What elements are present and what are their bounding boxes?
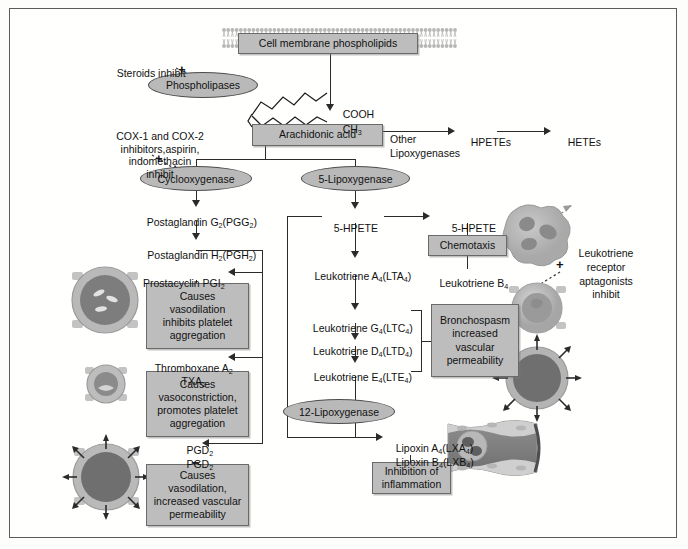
blood-vessel-constricted-left	[85, 365, 127, 403]
ltb4-label: Leukotriene B4	[420, 265, 516, 304]
bronchospasm-box[interactable]: Bronchospasm increased vascular permeabi…	[431, 304, 519, 377]
leukotriene-antagonists-label: Leukotriene receptor aptagonists inhibit	[561, 233, 651, 302]
steroids-inhibit-label: Steroids inhibit	[105, 55, 186, 92]
pgd2-label-b: PGD2	[150, 446, 238, 485]
steroids-plus-symbol: +	[178, 63, 186, 76]
hpete5-right-label: 5-HPETE	[440, 210, 496, 247]
antagonist-plus-symbol: +	[556, 258, 564, 271]
other-lipoxygenases-label: Other Lipoxygenases	[390, 118, 460, 161]
cox-inhibitors-label: COX-1 and COX-2 inhibitors,aspirin, indo…	[100, 118, 220, 180]
bronchospasm-label: Bronchospasm increased vascular permeabi…	[440, 314, 510, 367]
prostacyclin-label: Prostacyclin PGI2	[126, 265, 230, 304]
cell-membrane-label: Cell membrane phospholipids	[259, 37, 397, 50]
lta4-label: Leukotriene A4(LTA4)	[287, 258, 427, 297]
ch3-label: CH3	[331, 111, 362, 150]
cox-plus-symbol: +	[155, 152, 163, 165]
txa2-label: TXA2	[140, 363, 236, 402]
hpete5-left-label: 5-HPETE	[322, 210, 378, 247]
lte4-label: Leukotriene E4(LTE4)	[287, 359, 427, 398]
lxb4-label: Lipoxin B4(LXB4)	[384, 444, 474, 483]
lipoxygenase5-ellipse[interactable]: 5-Lipoxygenase	[301, 166, 410, 191]
hpetes-label: HPETEs	[459, 124, 511, 161]
cell-membrane-box[interactable]: Cell membrane phospholipids	[238, 33, 418, 54]
lipoxygenase12-ellipse[interactable]: 12-Lipoxygenase	[283, 399, 395, 424]
ch3-subscript: 3	[358, 128, 362, 137]
hetes-label: HETEs	[556, 124, 601, 161]
fatty-acid-chain-graphic	[248, 93, 327, 127]
blood-vessel-permeable-left	[62, 434, 150, 520]
pathway-diagram: Cell membrane phospholipids Arachidonic …	[0, 0, 688, 549]
lipoxygenase5-label: 5-Lipoxygenase	[318, 173, 392, 185]
lipoxygenase12-label: 12-Lipoxygenase	[299, 406, 379, 418]
